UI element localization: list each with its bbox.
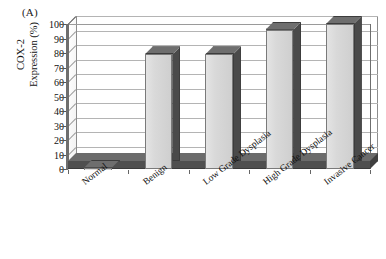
x-tick-mark — [310, 170, 311, 174]
x-tick-mark — [68, 170, 69, 174]
x-axis-category-labels: NormalBenignLow Grade DysplasiaHigh Grad… — [0, 0, 386, 259]
x-axis-label: Invasive Cancer — [322, 141, 377, 187]
x-tick-mark — [249, 170, 250, 174]
x-tick-mark — [189, 170, 190, 174]
cox2-expression-bar-chart: (A) COX-2 Expression (%) 100908070605040… — [0, 0, 386, 259]
x-axis-label: Benign — [141, 162, 169, 187]
x-axis-label: Normal — [80, 161, 109, 187]
x-tick-mark — [370, 170, 371, 174]
x-tick-mark — [128, 170, 129, 174]
